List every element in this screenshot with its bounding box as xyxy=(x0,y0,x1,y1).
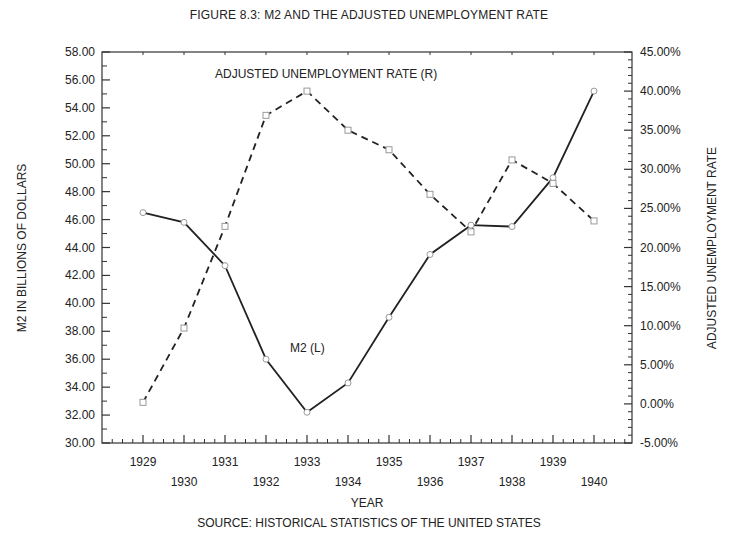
unemployment-marker xyxy=(386,147,392,153)
unemployment-marker xyxy=(550,180,556,186)
y-left-tick-label: 30.00 xyxy=(65,436,95,450)
unemployment-marker xyxy=(304,88,310,94)
m2-series-label: M2 (L) xyxy=(290,341,325,355)
chart-plot-area: 58.0056.0054.0052.0050.0048.0046.0044.00… xyxy=(0,0,738,554)
y-left-tick-label: 44.00 xyxy=(65,241,95,255)
x-tick-label: 1932 xyxy=(253,475,280,489)
m2-marker xyxy=(386,314,392,320)
m2-marker xyxy=(427,251,433,257)
y-left-tick-label: 52.00 xyxy=(65,129,95,143)
y-left-tick-label: 40.00 xyxy=(65,296,95,310)
x-tick-label: 1930 xyxy=(171,475,198,489)
y-left-tick-label: 32.00 xyxy=(65,408,95,422)
plot-frame xyxy=(102,52,632,443)
y-left-tick-label: 54.00 xyxy=(65,101,95,115)
y-left-tick-label: 48.00 xyxy=(65,185,95,199)
unemployment-series-label: ADJUSTED UNEMPLOYMENT RATE (R) xyxy=(215,67,437,81)
y-right-tick-label: 30.00% xyxy=(640,162,681,176)
unemployment-marker xyxy=(181,325,187,331)
m2-marker xyxy=(304,409,310,415)
m2-marker xyxy=(140,210,146,216)
y-left-tick-label: 46.00 xyxy=(65,213,95,227)
x-axis-label: YEAR xyxy=(102,496,632,510)
x-tick-label: 1933 xyxy=(294,455,321,469)
y-axis-right-label: ADJUSTED UNEMPLOYMENT RATE xyxy=(705,146,719,348)
m2-marker xyxy=(468,222,474,228)
y-left-tick-label: 34.00 xyxy=(65,380,95,394)
x-tick-label: 1934 xyxy=(335,475,362,489)
unemployment-marker xyxy=(263,112,269,118)
y-right-tick-label: -5.00% xyxy=(640,436,678,450)
series-lines xyxy=(140,88,597,415)
y-left-tick-label: 42.00 xyxy=(65,268,95,282)
x-tick-label: 1937 xyxy=(458,455,485,469)
y-right-tick-label: 40.00% xyxy=(640,84,681,98)
x-tick-label: 1940 xyxy=(581,475,608,489)
x-tick-label: 1935 xyxy=(376,455,403,469)
y-right-tick-label: 20.00% xyxy=(640,241,681,255)
y-right-tick-label: 35.00% xyxy=(640,123,681,137)
unemployment-marker xyxy=(509,157,515,163)
m2-marker xyxy=(509,224,515,230)
y-left-tick-label: 56.00 xyxy=(65,73,95,87)
y-right-tick-label: 5.00% xyxy=(640,358,674,372)
x-tick-label: 1931 xyxy=(212,455,239,469)
unemployment-line xyxy=(143,91,594,402)
m2-marker xyxy=(345,380,351,386)
m2-marker xyxy=(263,356,269,362)
y-left-tick-label: 38.00 xyxy=(65,324,95,338)
unemployment-marker xyxy=(222,223,228,229)
x-tick-label: 1936 xyxy=(417,475,444,489)
m2-marker xyxy=(181,219,187,225)
m2-marker xyxy=(222,263,228,269)
unemployment-marker xyxy=(468,229,474,235)
unemployment-marker xyxy=(140,399,146,405)
m2-marker xyxy=(591,88,597,94)
y-left-tick-label: 36.00 xyxy=(65,352,95,366)
x-tick-label: 1939 xyxy=(540,455,567,469)
y-right-tick-label: 0.00% xyxy=(640,397,674,411)
source-note: SOURCE: HISTORICAL STATISTICS OF THE UNI… xyxy=(0,516,738,530)
y-right-tick-label: 45.00% xyxy=(640,45,681,59)
y-left-tick-label: 50.00 xyxy=(65,157,95,171)
y-right-tick-label: 10.00% xyxy=(640,319,681,333)
y-axis-left-label: M2 IN BILLIONS OF DOLLARS xyxy=(15,163,29,332)
axes: 58.0056.0054.0052.0050.0048.0046.0044.00… xyxy=(65,45,681,489)
unemployment-marker xyxy=(591,218,597,224)
y-right-tick-label: 25.00% xyxy=(640,201,681,215)
y-left-tick-label: 58.00 xyxy=(65,45,95,59)
y-right-tick-label: 15.00% xyxy=(640,280,681,294)
m2-line xyxy=(143,91,594,412)
unemployment-marker xyxy=(427,191,433,197)
unemployment-marker xyxy=(345,127,351,133)
x-tick-label: 1929 xyxy=(130,455,157,469)
m2-marker xyxy=(550,175,556,181)
x-tick-label: 1938 xyxy=(499,475,526,489)
